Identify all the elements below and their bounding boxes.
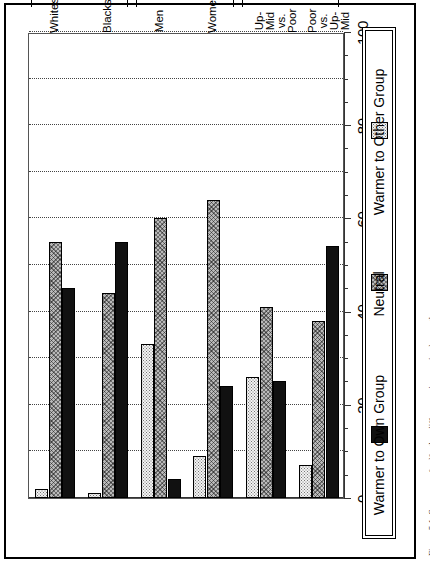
axis-tick-major <box>344 32 351 33</box>
category-label-line: Women <box>207 9 218 33</box>
gridline <box>29 124 343 125</box>
gridline <box>29 357 343 358</box>
gridline <box>29 311 343 312</box>
axis-tick-minor <box>344 288 348 289</box>
axis-tick-major <box>344 498 351 499</box>
bar <box>62 288 75 498</box>
axis-tick-major <box>344 125 351 126</box>
bar <box>193 456 206 498</box>
figure-caption: Figure 5.1. Summary of self-other differ… <box>416 0 430 565</box>
plot-area <box>28 33 344 499</box>
gridline <box>29 171 343 172</box>
axis-tick-major <box>344 405 351 406</box>
rotated-chart-wrapper: RaceGenderClass WhitesBlacksMenWomenUp-M… <box>6 5 418 561</box>
category-label-line: Up-Mid <box>329 9 351 33</box>
axis-tick-minor <box>344 335 348 336</box>
category-label: Blacks <box>102 9 113 33</box>
axis-tick-minor <box>344 382 348 383</box>
bar <box>207 200 220 498</box>
gridline <box>29 217 343 218</box>
bar <box>220 386 233 498</box>
bar <box>299 465 312 498</box>
gridline <box>29 264 343 265</box>
bar <box>312 321 325 498</box>
legend-inner-frame: Warmer to Own GroupNeutralWarmer to Othe… <box>365 30 393 536</box>
bar <box>141 344 154 498</box>
axis-tick-minor <box>344 79 348 80</box>
legend: Warmer to Own GroupNeutralWarmer to Othe… <box>362 27 396 539</box>
category-label: Men <box>154 9 165 33</box>
axis-tick-minor <box>344 149 348 150</box>
category-axis-labels: WhitesBlacksMenWomenUp-Mid vs.PoorPoor v… <box>28 9 344 33</box>
axis-tick-minor <box>344 265 348 266</box>
bar <box>35 489 48 498</box>
axis-tick-minor <box>344 102 348 103</box>
figure-page: RaceGenderClass WhitesBlacksMenWomenUp-M… <box>0 0 431 565</box>
group-bracket <box>242 0 339 7</box>
axis-tick-minor <box>344 475 348 476</box>
axis-tick-minor <box>344 55 348 56</box>
bar <box>88 493 101 498</box>
bar <box>246 377 259 498</box>
bar <box>154 218 167 498</box>
legend-label: Warmer to Other Group <box>371 68 387 215</box>
bar <box>49 242 62 498</box>
axis-tick-minor <box>344 451 348 452</box>
figure-caption-text: Figure 5.1. Summary of self-other differ… <box>427 315 430 556</box>
category-label-line: Men <box>154 9 165 33</box>
bar <box>168 479 181 498</box>
value-axis: 020406080100 <box>344 33 345 499</box>
axis-tick-minor <box>344 195 348 196</box>
category-label: Whites <box>49 9 60 33</box>
group-bracket <box>136 0 233 7</box>
axis-tick-minor <box>344 172 348 173</box>
bar <box>326 246 339 498</box>
axis-tick-minor <box>344 428 348 429</box>
category-label: Women <box>207 9 218 33</box>
axis-tick-major <box>344 312 351 313</box>
category-label: Poor vs.Up-Mid <box>307 9 351 33</box>
category-label-line: Up-Mid vs. <box>254 9 287 33</box>
bar <box>102 293 115 498</box>
gridline <box>29 450 343 451</box>
axis-tick-major <box>344 218 351 219</box>
legend-label: Warmer to Own Group <box>371 375 387 515</box>
figure-frame: RaceGenderClass WhitesBlacksMenWomenUp-M… <box>4 3 416 559</box>
legend-item: Neutral <box>366 274 392 291</box>
bar <box>273 382 286 499</box>
legend-label: Neutral <box>371 271 387 316</box>
axis-tick-minor <box>344 242 348 243</box>
axis-baseline <box>29 497 343 498</box>
bar <box>260 307 273 498</box>
category-label-line: Poor <box>287 9 298 33</box>
group-bracket <box>31 0 128 7</box>
category-label-line: Poor vs. <box>307 9 329 33</box>
axis-tick-minor <box>344 358 348 359</box>
category-label-line: Blacks <box>102 9 113 33</box>
category-label-line: Whites <box>49 9 60 33</box>
category-label: Up-Mid vs.Poor <box>254 9 298 33</box>
legend-item: Warmer to Own Group <box>366 426 392 443</box>
bar <box>115 242 128 498</box>
gridline <box>29 78 343 79</box>
legend-item: Warmer to Other Group <box>366 122 392 139</box>
gridline <box>29 404 343 405</box>
chart-stage: RaceGenderClass WhitesBlacksMenWomenUp-M… <box>14 9 410 557</box>
